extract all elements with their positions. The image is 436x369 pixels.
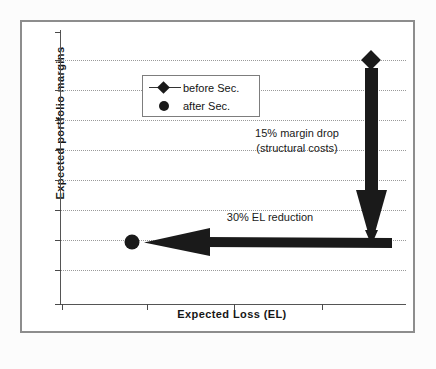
- x-axis-tick: [147, 304, 148, 310]
- x-axis-tick: [322, 304, 323, 310]
- legend-item-label: after Sec.: [183, 100, 230, 112]
- plot-area: 15% margin drop (structural costs) 30% E…: [60, 30, 406, 304]
- legend-item-label: before Sec.: [183, 82, 239, 94]
- circle-marker-icon: [147, 98, 183, 114]
- annotation-el-reduction: 30% EL reduction: [200, 210, 340, 225]
- y-axis-line: [60, 30, 61, 304]
- y-axis-tick: [55, 240, 61, 241]
- y-axis-tick: [55, 32, 61, 33]
- y-axis-tick: [55, 270, 61, 271]
- data-point-after-sec[interactable]: [125, 235, 140, 250]
- gridline: [60, 270, 406, 271]
- chart-figure: Expected portfolio margins Expected Loss…: [0, 0, 436, 369]
- chart-frame: Expected portfolio margins Expected Loss…: [20, 20, 415, 333]
- annotation-margin-drop-line2: (structural costs): [232, 141, 362, 156]
- legend-item-after-sec[interactable]: after Sec.: [143, 97, 259, 115]
- horizontal-reduction-arrow: [144, 228, 392, 256]
- annotation-margin-drop: 15% margin drop (structural costs): [232, 126, 362, 156]
- vertical-drop-arrow: [356, 68, 387, 245]
- chart-legend[interactable]: before Sec. after Sec.: [142, 75, 260, 117]
- x-axis-title: Expected Loss (EL): [62, 308, 402, 320]
- y-axis-tick: [55, 60, 61, 61]
- x-axis-tick: [234, 304, 235, 310]
- gridline: [60, 60, 406, 61]
- diamond-marker-icon: [147, 80, 183, 96]
- annotation-margin-drop-line1: 15% margin drop: [232, 126, 362, 141]
- gridline: [60, 180, 406, 181]
- gridline: [60, 120, 406, 121]
- legend-item-before-sec[interactable]: before Sec.: [143, 79, 259, 97]
- data-point-before-sec[interactable]: [361, 50, 381, 70]
- y-axis-tick: [55, 304, 61, 305]
- x-axis-tick: [62, 304, 63, 310]
- y-axis-tick: [55, 90, 61, 91]
- x-axis-line: [60, 304, 406, 305]
- gridline: [60, 240, 406, 241]
- y-axis-tick: [55, 150, 61, 151]
- y-axis-tick: [55, 180, 61, 181]
- arrow-layer: [60, 30, 406, 304]
- y-axis-tick: [55, 210, 61, 211]
- y-axis-tick: [55, 120, 61, 121]
